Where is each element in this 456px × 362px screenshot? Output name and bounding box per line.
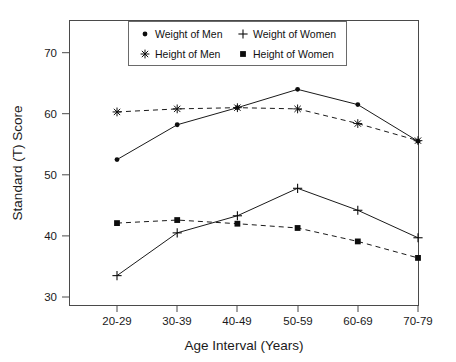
data-point — [115, 157, 120, 162]
data-point — [353, 206, 362, 215]
series-line — [117, 108, 418, 141]
chart-svg: 70 60 50 40 30 Standard (T) Score 20-29 … — [0, 0, 456, 362]
legend-label-weight-of-men: Weight of Men — [155, 28, 223, 40]
x-tick-label: 50-59 — [283, 315, 312, 327]
data-point — [295, 225, 301, 231]
x-tick-labels: 20-29 30-39 40-49 50-59 60-69 70-79 — [102, 315, 432, 327]
x-tick-label: 70-79 — [403, 315, 432, 327]
series-weight-of-men — [115, 87, 421, 162]
y-axis-title: Standard (T) Score — [10, 106, 25, 221]
data-point — [355, 239, 361, 245]
data-point — [353, 119, 362, 128]
data-point — [414, 136, 423, 145]
data-point — [415, 255, 421, 261]
y-tick-label: 70 — [44, 47, 57, 59]
data-point — [114, 220, 120, 226]
series-layer — [112, 87, 422, 280]
data-point — [233, 103, 242, 112]
series-weight-of-women — [112, 184, 422, 281]
data-point — [295, 87, 300, 92]
legend-label-height-of-women: Height of Women — [253, 48, 334, 60]
legend-label-height-of-men: Height of Men — [155, 48, 221, 60]
data-point — [355, 102, 360, 107]
legend-marker-filled-circle — [143, 32, 148, 37]
legend-label-weight-of-women: Weight of Women — [253, 28, 336, 40]
y-axis-ticks — [62, 53, 70, 297]
data-point — [235, 221, 241, 227]
series-height-of-men — [113, 103, 423, 145]
series-line — [117, 89, 418, 159]
x-tick-label: 20-29 — [102, 315, 131, 327]
data-point — [174, 217, 180, 223]
data-point — [233, 211, 242, 220]
legend-marker-filled-square — [240, 51, 246, 57]
x-axis-ticks — [117, 306, 418, 313]
data-point — [175, 122, 180, 127]
y-tick-label: 50 — [44, 169, 57, 181]
data-point — [413, 233, 422, 242]
x-tick-label: 40-49 — [222, 315, 251, 327]
y-tick-label: 40 — [44, 230, 57, 242]
data-point — [112, 271, 121, 280]
series-line — [117, 188, 418, 275]
x-tick-label: 60-69 — [343, 315, 372, 327]
series-line — [117, 220, 418, 258]
data-point — [173, 228, 182, 237]
data-point — [173, 104, 182, 113]
data-point — [293, 184, 302, 193]
chart-container: 70 60 50 40 30 Standard (T) Score 20-29 … — [0, 0, 456, 362]
legend-marker-asterisk — [141, 50, 150, 59]
y-tick-label: 30 — [44, 291, 57, 303]
x-tick-label: 30-39 — [162, 315, 191, 327]
series-height-of-women — [114, 217, 421, 261]
y-tick-label: 60 — [44, 108, 57, 120]
x-axis-title: Age Interval (Years) — [185, 338, 304, 353]
legend: Weight of Men Weight of Women Height of … — [129, 22, 347, 66]
data-point — [113, 108, 122, 117]
data-point — [293, 104, 302, 113]
y-tick-labels: 70 60 50 40 30 — [44, 47, 57, 303]
